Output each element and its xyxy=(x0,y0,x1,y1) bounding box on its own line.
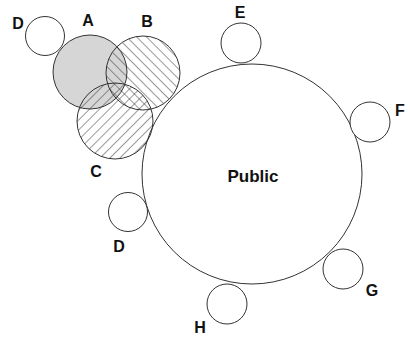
label-satellite-h: H xyxy=(194,319,206,336)
venn-public-diagram: A B C D E F D G H Public xyxy=(0,0,410,339)
satellite-circle-e xyxy=(221,23,261,63)
label-satellite-g: G xyxy=(366,282,378,299)
label-satellite-d-top: D xyxy=(12,15,24,32)
label-satellite-e: E xyxy=(235,4,246,21)
satellite-circle-f xyxy=(350,102,390,142)
satellite-circle-h xyxy=(207,284,247,324)
satellite-circle-d-bottom xyxy=(109,193,148,232)
label-set-b: B xyxy=(141,13,153,30)
label-set-a: A xyxy=(82,12,94,29)
label-satellite-f: F xyxy=(395,102,405,119)
label-public: Public xyxy=(227,167,278,186)
satellite-circle-g xyxy=(323,249,363,289)
label-satellite-d-bottom: D xyxy=(113,238,125,255)
label-set-c: C xyxy=(90,163,102,180)
satellite-circle-d-top xyxy=(26,17,65,56)
